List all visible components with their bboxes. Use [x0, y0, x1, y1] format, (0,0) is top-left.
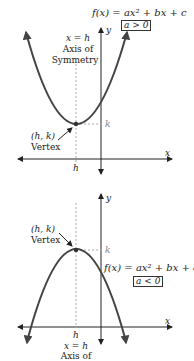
top-axis-eq: x = h: [58, 33, 98, 43]
bottom-equation: f(x) = ax² + bx + c: [104, 263, 194, 273]
top-vertex-point: [74, 122, 78, 126]
bottom-h-label: h: [73, 330, 79, 340]
top-x-label: x: [165, 148, 170, 158]
bottom-vertex-label: Vertex: [31, 235, 60, 245]
bottom-vertex-arrow: [59, 233, 72, 246]
bottom-y-label: y: [106, 193, 111, 203]
bottom-condition: a < 0: [133, 276, 163, 287]
top-h-label: h: [73, 163, 79, 173]
bottom-x-label: x: [165, 316, 170, 326]
top-axis-label-2: Symmetry: [50, 55, 100, 65]
top-axis-label-1: Axis of: [58, 44, 98, 54]
top-y-label: y: [106, 25, 111, 35]
bottom-axis-eq: x = h: [56, 341, 96, 351]
bottom-vertex-point: [74, 248, 78, 252]
bottom-vertex-coords: (h, k): [31, 224, 55, 234]
top-equation: f(x) = ax² + bx + c: [92, 8, 187, 18]
top-k-label: k: [105, 119, 110, 129]
top-condition: a > 0: [121, 20, 151, 31]
top-vertex-label: Vertex: [31, 142, 60, 152]
top-vertex-coords: (h, k): [31, 131, 55, 141]
top-vertex-arrow: [58, 128, 72, 140]
bottom-axis-label-1: Axis of: [56, 351, 96, 361]
bottom-k-label: k: [105, 245, 110, 255]
